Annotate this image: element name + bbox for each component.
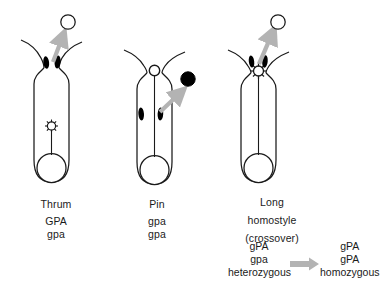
- anther-low-left: [138, 107, 144, 120]
- heterozygous-label: heterozygous: [228, 266, 290, 279]
- corolla-lobe-right: [59, 42, 82, 68]
- corolla-lobe-left: [21, 40, 44, 68]
- panel-thrum: [21, 15, 82, 183]
- caption-pin: Pin gpa gpa: [112, 198, 202, 240]
- morph-name-thrum: Thrum: [6, 198, 106, 211]
- corolla-tube-left-wall: [241, 73, 251, 160]
- crossover-genotype-block: gPA gpa heterozygous gPA gPA homozygous: [228, 240, 372, 279]
- morph-name-homostyle-line-2: homostyle: [218, 214, 326, 227]
- crossover-homozygous-side: gPA gPA homozygous: [320, 240, 380, 279]
- morph-name-pin: Pin: [112, 198, 202, 211]
- corolla-lobe-left: [124, 50, 147, 73]
- corolla-lobe-right: [162, 52, 185, 73]
- crossover-arrow: [290, 248, 320, 271]
- pollen-transfer-arrow: [160, 93, 180, 112]
- genotype-thrum-allele-2: gpa: [6, 228, 106, 241]
- homozygous-allele-top: gPA: [320, 240, 380, 253]
- ovary: [244, 154, 273, 183]
- crossover-heterozygous-side: gPA gpa heterozygous: [228, 240, 290, 279]
- corolla-lobe-right: [266, 52, 289, 73]
- corolla-tube-right-wall: [266, 73, 276, 160]
- caption-thrum: Thrum GPA gpa: [6, 198, 106, 240]
- genotype-pin-allele-2: gpa: [112, 228, 202, 241]
- stigma-low: [45, 120, 58, 133]
- stigma-high: [149, 65, 159, 75]
- corolla-tube-right-wall: [162, 73, 172, 162]
- panel-pin: [124, 50, 195, 185]
- corolla-tube-left-wall: [34, 68, 44, 160]
- heterozygous-allele-top: gPA: [228, 240, 290, 253]
- homozygous-label: homozygous: [320, 266, 380, 279]
- heterozygous-allele-bottom: gpa: [228, 253, 290, 266]
- pollen-open-circle: [61, 15, 75, 29]
- homozygous-allele-bottom: gPA: [320, 253, 380, 266]
- genotype-pin-allele-1: gpa: [112, 215, 202, 228]
- genotype-thrum-allele-1: GPA: [6, 215, 106, 228]
- corolla-tube-right-wall: [59, 68, 69, 160]
- pollen-open-circle: [271, 15, 285, 29]
- corolla-lobe-left: [228, 50, 251, 73]
- crossover-arrow-icon: [290, 257, 320, 271]
- panel-long-homostyle: [228, 15, 289, 183]
- ovary: [140, 156, 169, 185]
- morph-name-homostyle-line-1: Long: [218, 196, 326, 209]
- pollen-filled-circle: [181, 72, 195, 86]
- ovary: [37, 154, 66, 183]
